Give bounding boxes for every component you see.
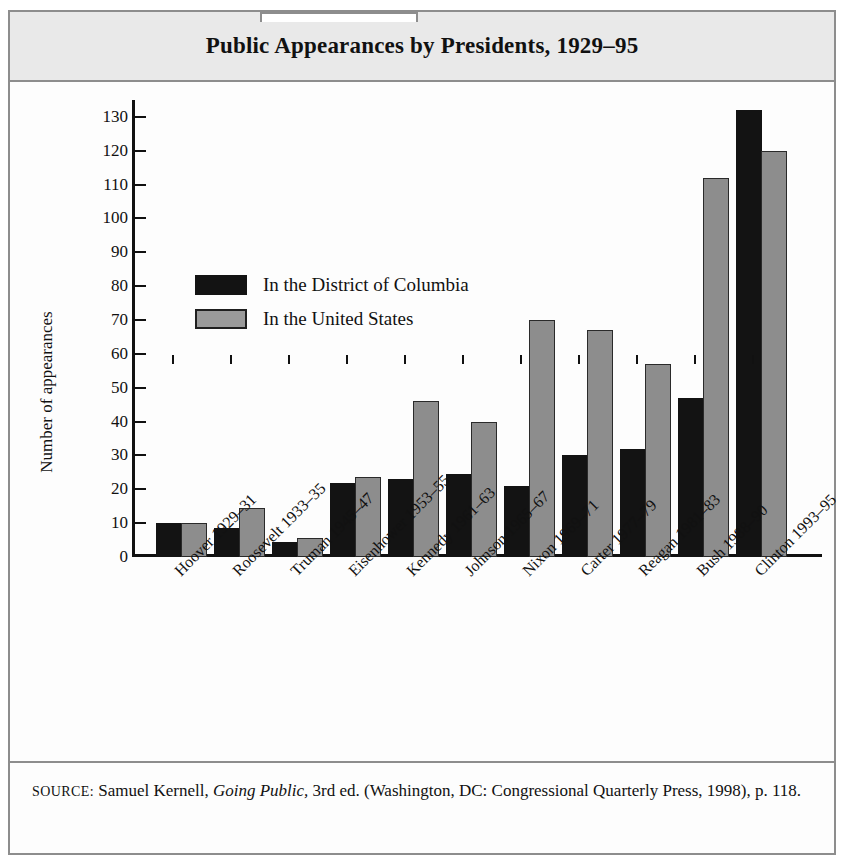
y-tick-label-90: 90 bbox=[88, 243, 128, 260]
y-tick-label-wrap: 50 bbox=[80, 388, 128, 389]
legend: In the District of Columbia In the Unite… bbox=[195, 274, 469, 342]
y-tick-label-20: 20 bbox=[88, 480, 128, 497]
x-tick bbox=[230, 355, 232, 364]
x-tick bbox=[404, 355, 406, 364]
y-tick-label-wrap: 60 bbox=[80, 354, 128, 355]
source-text: SOURCE: Samuel Kernell, Going Public, 3r… bbox=[32, 779, 812, 803]
bar-group bbox=[554, 82, 612, 557]
x-tick bbox=[636, 355, 638, 364]
y-tick-label-wrap: 110 bbox=[80, 185, 128, 186]
x-tick bbox=[694, 355, 696, 364]
legend-label-us: In the United States bbox=[263, 308, 413, 330]
y-tick-label-70: 70 bbox=[88, 311, 128, 328]
y-tick-label-110: 110 bbox=[88, 176, 128, 193]
y-tick-label-wrap: 40 bbox=[80, 422, 128, 423]
legend-item-dc: In the District of Columbia bbox=[195, 274, 469, 296]
x-tick bbox=[172, 355, 174, 364]
y-tick-label-80: 80 bbox=[88, 277, 128, 294]
source-label: SOURCE: bbox=[32, 784, 94, 799]
y-tick-label-wrap: 20 bbox=[80, 489, 128, 490]
plot-area: Number of appearances 010203040506070809… bbox=[10, 82, 834, 761]
y-axis-title: Number of appearances bbox=[37, 277, 57, 507]
y-tick-label-wrap: 130 bbox=[80, 117, 128, 118]
bar-us[interactable] bbox=[587, 330, 613, 557]
figure-number-tab bbox=[260, 12, 418, 22]
y-tick-label-100: 100 bbox=[88, 209, 128, 226]
x-tick bbox=[462, 355, 464, 364]
y-tick-label-60: 60 bbox=[88, 345, 128, 362]
bar-group bbox=[728, 82, 786, 557]
y-tick-label-wrap: 30 bbox=[80, 455, 128, 456]
y-tick-label-50: 50 bbox=[88, 379, 128, 396]
bar-dc[interactable] bbox=[736, 110, 762, 557]
bar-us[interactable] bbox=[645, 364, 671, 557]
x-tick bbox=[346, 355, 348, 364]
figure-container: Public Appearances by Presidents, 1929–9… bbox=[8, 10, 836, 855]
legend-swatch-us-icon bbox=[195, 309, 247, 329]
y-tick-label-wrap: 100 bbox=[80, 218, 128, 219]
bar-group bbox=[612, 82, 670, 557]
title-band: Public Appearances by Presidents, 1929–9… bbox=[10, 12, 834, 82]
x-axis-labels: Hoover 1929–31Roosevelt 1933–35Truman 19… bbox=[132, 561, 834, 701]
x-tick bbox=[578, 355, 580, 364]
legend-label-dc: In the District of Columbia bbox=[263, 274, 469, 296]
bar-us[interactable] bbox=[761, 151, 787, 557]
y-tick-label-wrap: 0 bbox=[80, 557, 128, 558]
x-tick bbox=[520, 355, 522, 364]
bar-dc[interactable] bbox=[156, 523, 182, 557]
y-tick-label-10: 10 bbox=[88, 514, 128, 531]
bar-group bbox=[670, 82, 728, 557]
source-part1: Samuel Kernell, bbox=[94, 781, 213, 800]
y-tick-label-wrap: 70 bbox=[80, 320, 128, 321]
y-tick-label-30: 30 bbox=[88, 446, 128, 463]
legend-swatch-dc-icon bbox=[195, 275, 247, 295]
source-part2: 3rd ed. (Washington, DC: Congressional Q… bbox=[308, 781, 801, 800]
y-tick-label-wrap: 80 bbox=[80, 286, 128, 287]
bar-group bbox=[496, 82, 554, 557]
chart-title: Public Appearances by Presidents, 1929–9… bbox=[206, 33, 639, 59]
legend-item-us: In the United States bbox=[195, 308, 469, 330]
y-tick-label-0: 0 bbox=[88, 548, 128, 565]
source-book-title: Going Public, bbox=[213, 781, 308, 800]
y-tick-label-wrap: 90 bbox=[80, 252, 128, 253]
y-tick-label-120: 120 bbox=[88, 142, 128, 159]
x-tick bbox=[752, 355, 754, 364]
y-tick-label-wrap: 10 bbox=[80, 523, 128, 524]
y-tick-label-40: 40 bbox=[88, 413, 128, 430]
y-tick-label-wrap: 120 bbox=[80, 151, 128, 152]
bar-us[interactable] bbox=[529, 320, 555, 557]
source-note: SOURCE: Samuel Kernell, Going Public, 3r… bbox=[10, 761, 834, 853]
y-tick-label-130: 130 bbox=[88, 108, 128, 125]
x-tick bbox=[288, 355, 290, 364]
